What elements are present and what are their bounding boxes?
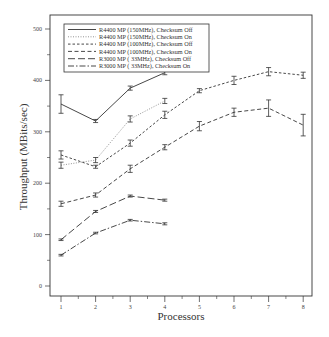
series-line xyxy=(61,220,165,255)
series-line xyxy=(61,196,165,240)
series-2 xyxy=(59,98,168,168)
series-6 xyxy=(59,219,168,256)
x-tick-label: 8 xyxy=(302,304,305,310)
y-tick-label: 400 xyxy=(33,77,42,83)
error-bar xyxy=(59,162,64,168)
error-bar xyxy=(59,151,64,159)
x-tick-label: 6 xyxy=(233,304,236,310)
error-bar xyxy=(128,165,133,172)
legend: R4400 MP (150MHz), Checksum OffR4400 MP … xyxy=(64,24,209,72)
series-4 xyxy=(59,100,306,206)
error-bar xyxy=(162,223,167,225)
error-bar xyxy=(162,98,167,103)
series-line xyxy=(61,73,165,121)
series-5 xyxy=(59,195,168,241)
error-bar xyxy=(128,140,133,146)
legend-entry: R3000 MP ( 33MHz), Checksum On xyxy=(99,62,190,70)
series-1 xyxy=(59,71,168,123)
throughput-chart: 010020030040050012345678ProcessorsThroug… xyxy=(0,0,329,337)
y-tick-label: 300 xyxy=(33,129,42,135)
x-tick-label: 7 xyxy=(267,304,270,310)
error-bar xyxy=(59,254,64,256)
series-line xyxy=(61,101,165,165)
x-tick-label: 2 xyxy=(94,304,97,310)
error-bar xyxy=(59,239,64,241)
y-axis-label: Throughput (MBits/sec) xyxy=(17,103,30,210)
error-bar xyxy=(128,219,133,221)
error-bar xyxy=(93,232,98,234)
series-3 xyxy=(59,68,306,169)
error-bar xyxy=(162,145,167,150)
error-bar xyxy=(93,210,98,212)
y-tick-label: 200 xyxy=(33,180,42,186)
error-bar xyxy=(93,165,98,168)
error-bar xyxy=(301,114,306,136)
y-tick-label: 500 xyxy=(33,26,42,32)
error-bar xyxy=(162,111,167,118)
y-tick-label: 100 xyxy=(33,232,42,238)
x-tick-label: 3 xyxy=(129,304,132,310)
x-axis-label: Processors xyxy=(157,310,204,322)
y-tick-label: 0 xyxy=(39,283,42,289)
error-bar xyxy=(232,108,237,116)
x-tick-label: 1 xyxy=(60,304,63,310)
error-bar xyxy=(197,122,202,131)
error-bar xyxy=(59,95,64,114)
